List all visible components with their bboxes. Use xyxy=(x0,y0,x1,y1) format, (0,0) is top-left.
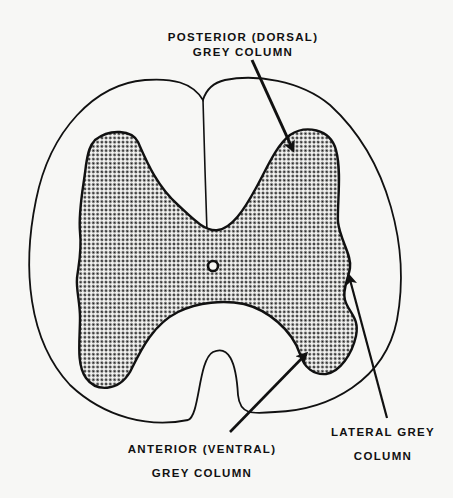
lateral-label-line1: LATERAL GREY xyxy=(315,420,451,444)
central-canal xyxy=(208,261,218,271)
posterior-label-line1: POSTERIOR (DORSAL) xyxy=(158,30,328,45)
lateral-label-line2: COLUMN xyxy=(315,444,451,468)
anterior-arrow xyxy=(230,354,306,432)
lateral-arrow xyxy=(349,276,387,418)
posterior-median-sulcus xyxy=(203,100,207,232)
anterior-label-line2: GREY COLUMN xyxy=(112,461,292,485)
anterior-grey-column-label: ANTERIOR (VENTRAL) GREY COLUMN xyxy=(112,437,292,485)
posterior-label-line2: GREY COLUMN xyxy=(158,45,328,60)
spinal-cord-diagram: POSTERIOR (DORSAL) GREY COLUMN LATERAL G… xyxy=(0,0,453,498)
posterior-grey-column-label: POSTERIOR (DORSAL) GREY COLUMN xyxy=(158,30,328,60)
lateral-grey-column-label: LATERAL GREY COLUMN xyxy=(315,420,451,468)
grey-matter-butterfly xyxy=(77,130,357,388)
posterior-arrow xyxy=(252,60,293,150)
anterior-label-line1: ANTERIOR (VENTRAL) xyxy=(112,437,292,461)
